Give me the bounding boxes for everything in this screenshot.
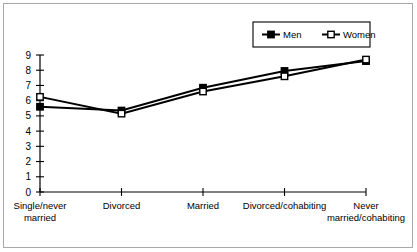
line-chart-canvas: 0123456789 Single/nevermarriedDivorcedMa… bbox=[0, 0, 417, 252]
y-tick-label: 5 bbox=[25, 110, 31, 121]
data-point-women bbox=[363, 56, 369, 62]
legend-marker-men bbox=[268, 31, 274, 37]
legend-label-men: Men bbox=[283, 29, 301, 40]
legend-marker-women bbox=[328, 31, 334, 37]
x-axis-category-labels: Single/nevermarriedDivorcedMarriedDivorc… bbox=[14, 200, 405, 223]
x-category-label: married/cohabiting bbox=[327, 212, 405, 223]
chart-figure: 0123456789 Single/nevermarriedDivorcedMa… bbox=[0, 0, 417, 252]
y-tick-label: 6 bbox=[25, 95, 31, 106]
y-tick-label: 4 bbox=[25, 126, 31, 137]
x-category-label: Never bbox=[353, 200, 378, 211]
y-tick-label: 3 bbox=[25, 141, 31, 152]
y-tick-label: 2 bbox=[25, 156, 31, 167]
x-category-label: Single/never bbox=[14, 200, 67, 211]
x-category-label: Married bbox=[187, 200, 219, 211]
data-point-women bbox=[118, 110, 124, 116]
series-markers bbox=[37, 56, 369, 116]
x-category-label: Divorced bbox=[103, 200, 141, 211]
y-axis-tick-labels: 0123456789 bbox=[25, 50, 31, 198]
legend-label-women: Women bbox=[343, 29, 376, 40]
y-tick-label: 1 bbox=[25, 171, 31, 182]
x-category-label: married bbox=[24, 212, 56, 223]
x-category-label: Divorced/cohabiting bbox=[243, 200, 326, 211]
data-point-women bbox=[37, 94, 43, 100]
chart-legend: MenWomen bbox=[253, 22, 376, 47]
y-tick-label: 0 bbox=[25, 187, 31, 198]
y-tick-label: 9 bbox=[25, 50, 31, 61]
data-point-women bbox=[281, 73, 287, 79]
y-tick-label: 7 bbox=[25, 80, 31, 91]
data-point-women bbox=[200, 88, 206, 94]
y-tick-label: 8 bbox=[25, 65, 31, 76]
data-point-men bbox=[37, 104, 43, 110]
